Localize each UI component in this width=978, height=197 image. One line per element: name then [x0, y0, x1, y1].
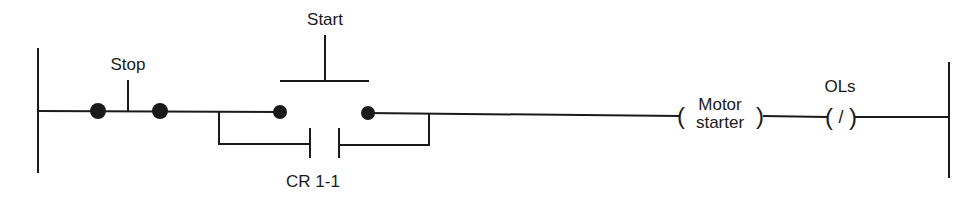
branch-left-wire	[219, 112, 310, 144]
motor-coil-close-paren: )	[756, 102, 764, 129]
rung-wire	[367, 113, 680, 116]
ladder-diagram: Stop Start CR 1-1 ( Motor starter ) OLs …	[0, 0, 978, 197]
start-contact-left-dot	[273, 105, 287, 119]
cr-contact-label: CR 1-1	[286, 172, 340, 191]
stop-label: Stop	[111, 55, 146, 74]
stop-contact-right-dot	[152, 103, 168, 119]
stop-contact-left-dot	[90, 103, 106, 119]
ols-open-paren: (	[825, 103, 833, 130]
start-contact-right-dot	[361, 106, 375, 120]
start-label: Start	[307, 10, 343, 29]
branch-right-wire	[339, 113, 429, 145]
motor-starter-label-line1: Motor	[698, 95, 742, 114]
ols-slash: /	[838, 107, 843, 127]
motor-coil-open-paren: (	[677, 102, 685, 129]
motor-starter-label-line2: starter	[696, 113, 745, 132]
ols-close-paren: )	[849, 103, 857, 130]
rung-wire	[763, 116, 827, 117]
ols-label: OLs	[824, 77, 855, 96]
